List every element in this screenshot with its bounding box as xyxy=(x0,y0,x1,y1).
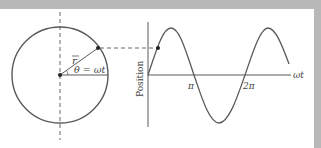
tick-pi: π xyxy=(187,81,195,91)
angle-arc xyxy=(67,70,69,75)
y-axis-label: Position xyxy=(135,60,145,97)
graph-point-dot xyxy=(156,46,160,50)
x-axis-label: ωt xyxy=(293,70,304,80)
angle-label: θ = ωt xyxy=(74,64,105,75)
center-dot xyxy=(58,73,62,77)
tick-2pi: 2π xyxy=(242,81,256,91)
circle-point-dot xyxy=(96,46,100,50)
circular-motion-diagram: r θ = ωt ωt Position π 2π xyxy=(0,0,321,148)
